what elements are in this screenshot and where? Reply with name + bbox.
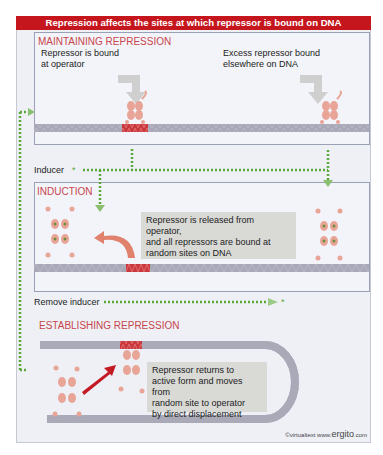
dna-strand-induction — [34, 264, 369, 272]
label-line: Excess repressor bound — [223, 48, 333, 59]
label-bound-operator: Repressor is bound at operator — [41, 48, 131, 70]
inducer-path — [83, 149, 328, 205]
repressor-at-operator-establishing — [119, 350, 145, 394]
label-line: Repressor is bound — [41, 48, 131, 59]
label-bound-elsewhere: Excess repressor bound elsewhere on DNA — [223, 48, 333, 70]
inducer-arrowhead-left — [95, 205, 105, 212]
remove-inducer-label: Remove inducer — [34, 297, 100, 308]
label-line: at operator — [41, 59, 131, 70]
section-title-induction: INDUCTION — [37, 186, 93, 197]
displacement-arrow-icon — [82, 365, 116, 395]
inducer-symbol-removed: * — [281, 297, 285, 307]
callout-line: Repressor is released from operator, — [146, 215, 291, 237]
inducer-label: Inducer — [34, 165, 64, 176]
label-line: elsewhere on DNA — [223, 59, 333, 70]
callout-line: Repressor returns to — [152, 365, 262, 376]
callout-line: random site to operator — [152, 398, 262, 409]
repressor-induced-left — [46, 207, 75, 258]
callout-line: active form and moves from — [152, 376, 262, 398]
copyright: ©virtualtext www.ergito.com — [285, 429, 367, 439]
repressor-random-site — [53, 366, 82, 417]
inducer-symbol: * — [72, 165, 76, 175]
repressor-induced-right — [316, 209, 343, 261]
operator-maintaining — [122, 124, 148, 132]
callout-induction: Repressor is released from operator, and… — [141, 212, 296, 259]
copyright-prefix: ©virtualtext www. — [285, 432, 331, 438]
callout-arrow-right — [300, 75, 328, 104]
loop-arrowhead — [28, 108, 35, 116]
callout-line: by direct displacement — [152, 409, 262, 420]
callout-line: and all repressors are bound at — [146, 237, 291, 248]
callout-establishing: Repressor returns to active form and mov… — [147, 362, 267, 412]
callout-arrow-left — [118, 75, 146, 104]
section-title-establishing: ESTABLISHING REPRESSION — [39, 320, 179, 331]
copyright-brand: ergito — [331, 429, 354, 439]
callout-line: random sites on DNA — [146, 248, 291, 259]
operator-establishing — [120, 341, 142, 349]
loop-path — [20, 112, 28, 370]
remove-inducer-arrowhead — [268, 298, 278, 306]
operator-induction — [126, 264, 150, 272]
inducer-arrowhead-right — [323, 180, 333, 187]
dna-strand-maintaining — [34, 124, 369, 132]
release-arrow-icon — [94, 231, 135, 258]
copyright-suffix: .com — [354, 432, 367, 438]
section-title-maintaining: MAINTAINING REPRESSION — [38, 36, 171, 47]
